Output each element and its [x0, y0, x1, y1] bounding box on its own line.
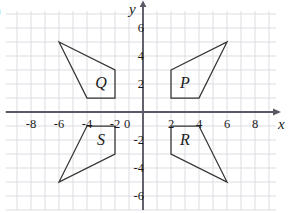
x-tick-label: -8 — [22, 118, 40, 131]
y-tick-label: 2 — [124, 78, 144, 91]
x-axis-arrow — [273, 109, 281, 116]
coordinate-plot — [0, 0, 293, 213]
x-tick-label: 4 — [190, 118, 208, 131]
y-tick-label: -6 — [124, 190, 144, 203]
grid-lines — [6, 11, 276, 210]
y-tick-label: 4 — [124, 50, 144, 63]
x-tick-label: -4 — [78, 118, 96, 131]
y-tick-label: -2 — [124, 134, 144, 147]
x-axis-label: x — [278, 117, 285, 132]
y-axis-label: y — [129, 2, 136, 17]
y-axis-arrow — [140, 1, 147, 8]
x-tick-label: 6 — [218, 118, 236, 131]
shape-label-s: S — [93, 132, 109, 148]
x-tick-label: 8 — [246, 118, 264, 131]
shape-label-q: Q — [93, 75, 109, 91]
shape-label-p: P — [177, 75, 193, 91]
shape-label-r: R — [177, 132, 193, 148]
y-tick-label: -4 — [124, 162, 144, 175]
y-tick-label: 6 — [124, 22, 144, 35]
x-tick-label: -6 — [50, 118, 68, 131]
coordinate-plane-figure: ) -8-6-4-22468642-2-4-60xyPQRS — [0, 0, 293, 213]
x-tick-label: 2 — [162, 118, 180, 131]
origin-label: 0 — [120, 118, 134, 131]
